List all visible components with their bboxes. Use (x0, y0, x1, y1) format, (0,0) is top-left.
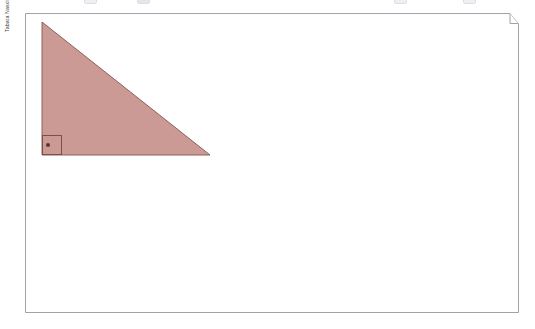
toolbar-control-3[interactable] (394, 0, 407, 4)
document-page-frame (25, 13, 518, 313)
page-outline-path (26, 14, 519, 313)
page-corner-fold (510, 14, 519, 24)
screenshot-canvas: Tabata Nascimento (0, 0, 535, 329)
toolbar-control-2[interactable] (137, 0, 150, 4)
toolbar-control-4[interactable] (463, 0, 476, 4)
vertical-axis-label-text: Tabata Nascimento (0, 0, 14, 32)
toolbar-strip (0, 0, 535, 11)
vertical-axis-label: Tabata Nascimento (0, 0, 14, 32)
toolbar-control-1[interactable] (84, 0, 97, 4)
